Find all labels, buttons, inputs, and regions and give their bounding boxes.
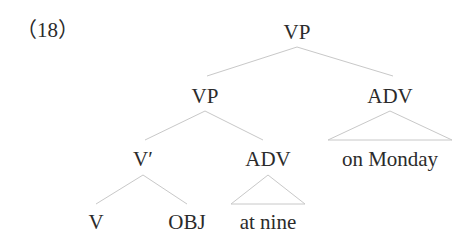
edge-vp-vbar — [145, 111, 205, 140]
edge-vbar-obj — [143, 175, 187, 204]
node-adv-mid: ADV — [245, 149, 291, 170]
triangle-at-nine — [231, 175, 305, 204]
leaf-v: V — [88, 212, 103, 233]
node-root-vp: VP — [284, 22, 311, 43]
leaf-at-nine: at nine — [240, 212, 297, 233]
edge-vbar-v — [96, 175, 143, 204]
node-vp: VP — [192, 86, 219, 107]
edge-root-vp — [207, 47, 297, 76]
edge-vp-adv — [205, 111, 263, 140]
node-v-bar: V′ — [133, 149, 153, 170]
tree-edges — [0, 0, 474, 244]
syntax-tree-diagram: （18） VP VP ADV V′ ADV on Monday V OBJ at… — [0, 0, 474, 244]
leaf-obj: OBJ — [168, 212, 205, 233]
node-adv-right: ADV — [367, 86, 413, 107]
edge-root-adv — [297, 47, 393, 76]
leaf-on-monday: on Monday — [342, 149, 438, 170]
triangle-on-monday — [328, 111, 452, 140]
